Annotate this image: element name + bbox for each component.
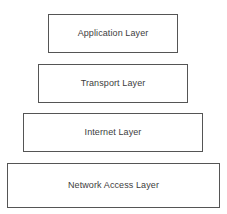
layer-box-transport[interactable]: Transport Layer (38, 64, 188, 103)
layer-label-transport: Transport Layer (81, 78, 146, 89)
layer-label-network-access: Network Access Layer (68, 180, 159, 191)
layer-label-application: Application Layer (78, 28, 149, 39)
layer-stack-diagram: Application Layer Transport Layer Intern… (0, 0, 227, 214)
layer-box-application[interactable]: Application Layer (48, 14, 178, 53)
layer-box-network-access[interactable]: Network Access Layer (7, 163, 220, 208)
layer-box-internet[interactable]: Internet Layer (23, 113, 203, 152)
layer-label-internet: Internet Layer (85, 127, 142, 138)
